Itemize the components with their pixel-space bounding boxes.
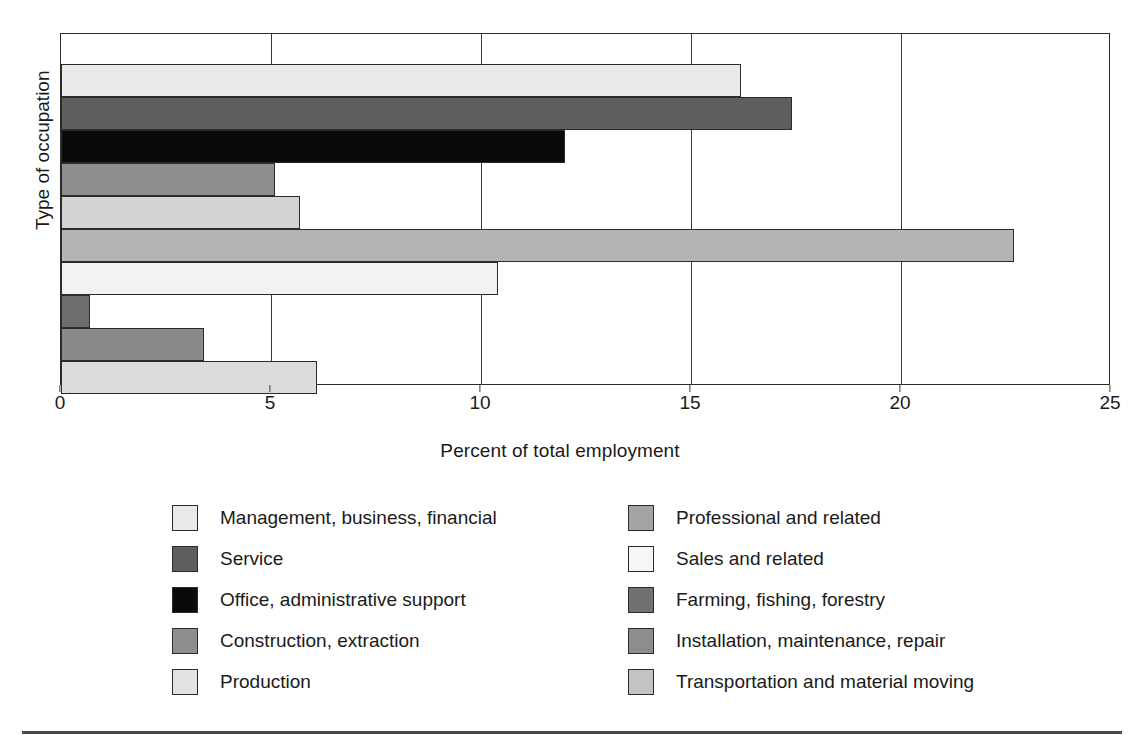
bar-7 xyxy=(61,262,498,295)
x-tick-mark-0 xyxy=(59,385,60,392)
bar-row xyxy=(61,163,1111,196)
y-axis-label-text: Type of occupation xyxy=(32,30,54,230)
bars-group xyxy=(61,34,1109,384)
x-tick-label-20: 20 xyxy=(889,392,910,414)
legend-item[interactable]: Farming, fishing, forestry xyxy=(628,579,974,620)
legend-item[interactable]: Production xyxy=(172,661,497,702)
x-tick-label-10: 10 xyxy=(469,392,490,414)
legend-item-label: Installation, maintenance, repair xyxy=(676,630,945,652)
legend: Management, business, financialServiceOf… xyxy=(0,497,1146,702)
bar-1 xyxy=(61,64,741,97)
legend-column-right: Professional and relatedSales and relate… xyxy=(628,497,974,702)
legend-item-label: Construction, extraction xyxy=(220,630,420,652)
bar-row xyxy=(61,196,1111,229)
bar-10 xyxy=(61,361,317,394)
bottom-rule xyxy=(22,731,1122,734)
x-tick-label-15: 15 xyxy=(679,392,700,414)
bar-row xyxy=(61,64,1111,97)
x-tick-mark-15 xyxy=(689,385,690,392)
legend-item[interactable]: Sales and related xyxy=(628,538,974,579)
legend-swatch-icon xyxy=(628,628,654,654)
x-tick-mark-10 xyxy=(479,385,480,392)
bar-row xyxy=(61,130,1111,163)
x-axis-ticks: 0510152025 xyxy=(0,392,1146,418)
x-tick-mark-20 xyxy=(899,385,900,392)
x-tick-mark-5 xyxy=(269,385,270,392)
legend-item-label: Sales and related xyxy=(676,548,824,570)
legend-swatch-icon xyxy=(628,587,654,613)
x-tick-label-5: 5 xyxy=(265,392,276,414)
legend-item[interactable]: Service xyxy=(172,538,497,579)
legend-item[interactable]: Transportation and material moving xyxy=(628,661,974,702)
legend-swatch-icon xyxy=(172,587,198,613)
x-axis-label-text: Percent of total employment xyxy=(440,440,679,462)
bar-4 xyxy=(61,163,275,196)
legend-swatch-icon xyxy=(172,546,198,572)
legend-item-label: Professional and related xyxy=(676,507,881,529)
bar-row xyxy=(61,229,1111,262)
bar-row xyxy=(61,262,1111,295)
bar-2 xyxy=(61,97,792,130)
bar-row xyxy=(61,97,1111,130)
plot-area xyxy=(60,33,1110,385)
legend-item[interactable]: Professional and related xyxy=(628,497,974,538)
legend-swatch-icon xyxy=(628,505,654,531)
x-tick-label-0: 0 xyxy=(55,392,66,414)
legend-item-label: Farming, fishing, forestry xyxy=(676,589,885,611)
legend-swatch-icon xyxy=(172,669,198,695)
bar-5 xyxy=(61,196,300,229)
legend-item[interactable]: Management, business, financial xyxy=(172,497,497,538)
legend-swatch-icon xyxy=(172,628,198,654)
bar-6 xyxy=(61,229,1014,262)
legend-item-label: Management, business, financial xyxy=(220,507,497,529)
legend-swatch-icon xyxy=(628,669,654,695)
legend-column-left: Management, business, financialServiceOf… xyxy=(172,497,497,702)
x-axis-label: Percent of total employment xyxy=(0,440,1146,462)
legend-item[interactable]: Office, administrative support xyxy=(172,579,497,620)
bar-8 xyxy=(61,295,90,328)
x-tick-label-25: 25 xyxy=(1099,392,1120,414)
legend-item-label: Transportation and material moving xyxy=(676,671,974,693)
x-tick-mark-25 xyxy=(1109,385,1110,392)
bar-3 xyxy=(61,130,565,163)
legend-swatch-icon xyxy=(172,505,198,531)
legend-swatch-icon xyxy=(628,546,654,572)
bar-row xyxy=(61,361,1111,394)
legend-item-label: Production xyxy=(220,671,311,693)
legend-item[interactable]: Installation, maintenance, repair xyxy=(628,620,974,661)
bar-row xyxy=(61,328,1111,361)
legend-item-label: Service xyxy=(220,548,283,570)
bar-9 xyxy=(61,328,204,361)
y-axis-label: Type of occupation xyxy=(10,0,32,120)
legend-item[interactable]: Construction, extraction xyxy=(172,620,497,661)
legend-item-label: Office, administrative support xyxy=(220,589,466,611)
bar-row xyxy=(61,295,1111,328)
bar-chart-figure: Type of occupation 0510152025 Percent of… xyxy=(0,0,1146,752)
